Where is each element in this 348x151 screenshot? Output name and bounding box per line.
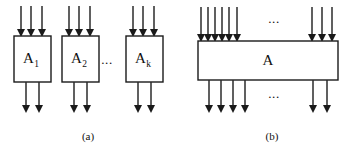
module-a-merged-output-arrow-5	[309, 80, 317, 113]
module-ak-label-subscript: k	[146, 59, 151, 69]
module-a1-group: A1	[14, 6, 51, 113]
module-a1-label-subscript: 1	[34, 59, 39, 69]
module-a2-output-arrow-1-head	[70, 105, 78, 113]
module-a1-input-arrow-3	[38, 6, 46, 37]
module-a2-output-arrow-2-head	[83, 105, 91, 113]
module-a1-output-arrow-2	[35, 82, 43, 113]
panel-b-top-ellipsis: ...	[268, 11, 280, 26]
module-a2-label-subscript: 2	[82, 59, 87, 69]
module-ak-output-arrow-2-head	[147, 105, 155, 113]
module-a-merged-output-arrow-6	[323, 80, 331, 113]
module-a-merged-input-arrow-6	[233, 7, 241, 42]
module-a-merged-input-arrow-2	[204, 7, 212, 42]
panel-b-caption: (b)	[266, 130, 279, 143]
module-a1-input-arrow-2	[27, 6, 35, 37]
module-a-merged-output-arrow-4-head	[241, 105, 249, 113]
module-a2-input-arrow-3	[86, 6, 94, 37]
module-a1-label: A	[23, 50, 34, 66]
module-a2-output-arrow-2	[83, 82, 91, 113]
module-a-merged-output-arrow-4	[241, 80, 249, 113]
module-a-merged-output-arrow-2	[217, 80, 225, 113]
module-a-merged-input-arrow-9	[328, 7, 336, 42]
module-ak-input-arrow-3	[150, 6, 158, 37]
module-a2-input-arrow-1	[65, 6, 73, 37]
module-a2-output-arrow-1	[70, 82, 78, 113]
module-a-merged-input-arrow-5	[225, 7, 233, 42]
module-ak-output-arrow-1-head	[134, 105, 142, 113]
module-a1-input-arrow-1	[17, 6, 25, 37]
module-ak-label: A	[135, 50, 146, 66]
panel-b: A......(b)	[197, 7, 338, 143]
panel-b-bottom-ellipsis: ...	[268, 86, 280, 101]
module-a1-output-arrow-1	[22, 82, 30, 113]
module-decomposition-diagram: A1A2Ak...(a)A......(b)	[0, 0, 348, 151]
module-a-merged-output-arrow-3-head	[229, 105, 237, 113]
module-a-merged-input-arrow-8	[318, 7, 326, 42]
module-ak-group: Ak	[126, 6, 163, 113]
module-ak-output-arrow-1	[134, 82, 142, 113]
module-ak-output-arrow-2	[147, 82, 155, 113]
panel-a-caption: (a)	[82, 130, 95, 143]
module-a-merged-output-arrow-6-head	[323, 105, 331, 113]
module-a-merged-output-arrow-2-head	[217, 105, 225, 113]
panel-a: A1A2Ak...(a)	[14, 6, 163, 143]
module-a1-output-arrow-2-head	[35, 105, 43, 113]
module-a2-label: A	[71, 50, 82, 66]
module-a-merged-input-arrow-4	[218, 7, 226, 42]
module-ak-input-arrow-1	[129, 6, 137, 37]
figure-container: A1A2Ak...(a)A......(b)	[0, 0, 348, 151]
module-a-merged-label: A	[263, 52, 274, 68]
module-a1-output-arrow-1-head	[22, 105, 30, 113]
module-a-merged-output-arrow-1-head	[205, 105, 213, 113]
module-ak-input-arrow-2	[139, 6, 147, 37]
module-a-merged-output-arrow-3	[229, 80, 237, 113]
module-a-merged-input-arrow-1	[197, 7, 205, 42]
module-a2-input-arrow-2	[75, 6, 83, 37]
module-a-merged-output-arrow-5-head	[309, 105, 317, 113]
module-a-merged-input-arrow-7	[308, 7, 316, 42]
panel-a-ellipsis: ...	[101, 52, 113, 67]
module-a2-group: A2	[62, 6, 99, 113]
module-a-merged-output-arrow-1	[205, 80, 213, 113]
module-a-merged-input-arrow-3	[211, 7, 219, 42]
